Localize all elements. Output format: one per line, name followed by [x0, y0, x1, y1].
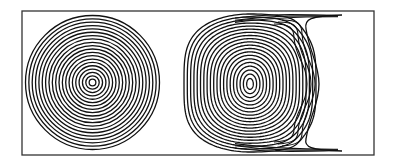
left-concentric-circles: [26, 16, 160, 150]
circle-ring: [79, 69, 106, 96]
streamline-figure: [0, 0, 393, 166]
circle-ring: [39, 29, 146, 136]
streamline-ring: [247, 79, 254, 90]
circle-ring: [62, 52, 122, 112]
circle-ring: [56, 46, 130, 120]
circle-ring: [52, 42, 132, 122]
streamline-ring: [234, 62, 267, 104]
figure-canvas: [0, 0, 393, 166]
circle-ring: [42, 32, 143, 133]
streamline-ring: [224, 52, 277, 115]
circle-ring: [72, 62, 112, 102]
right-deformed-streamlines: [184, 14, 316, 152]
circle-ring: [86, 76, 99, 89]
circle-ring: [29, 19, 156, 146]
circle-ring: [89, 79, 96, 86]
streamline-ring: [197, 26, 303, 140]
circle-ring: [66, 56, 120, 110]
circle-ring: [76, 66, 110, 100]
streamline-ring: [243, 74, 256, 94]
circle-ring: [46, 36, 140, 130]
streamline-ring: [237, 66, 263, 101]
circle-ring: [32, 22, 153, 143]
